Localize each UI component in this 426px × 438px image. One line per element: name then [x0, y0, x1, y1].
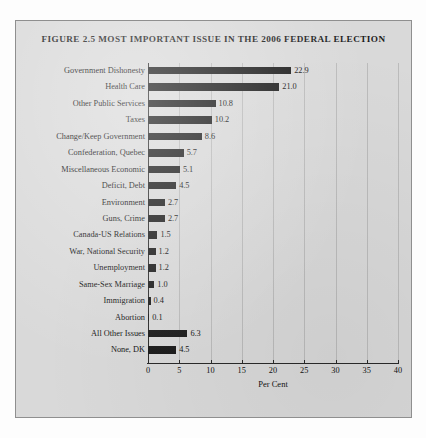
bar	[148, 67, 291, 74]
bar	[148, 264, 156, 271]
chart-row: Other Public Services10.8	[16, 96, 413, 112]
bar-track: 22.9	[148, 63, 398, 79]
chart-row: Canada-US Relations1.5	[16, 227, 413, 243]
bar-track: 1.5	[148, 227, 398, 243]
x-tick-0	[148, 360, 149, 363]
bar-value-label: 4.5	[179, 179, 189, 192]
chart-row: Same-Sex Marriage1.0	[16, 277, 413, 293]
chart-row: All Other Issues6.3	[16, 326, 413, 342]
category-label: Immigration	[25, 294, 145, 307]
bar	[148, 199, 165, 206]
x-tick-label-15: 15	[227, 366, 257, 375]
bar	[148, 281, 154, 288]
chart-row: Environment2.7	[16, 195, 413, 211]
x-axis: Per Cent 0510152025303540	[148, 363, 398, 393]
bar	[148, 314, 149, 321]
category-label: Government Dishonesty	[25, 64, 145, 77]
bar-value-label: 10.2	[215, 113, 230, 126]
bar	[148, 248, 156, 255]
bar	[148, 297, 151, 304]
category-label: Canada-US Relations	[25, 228, 145, 241]
bar-track: 4.5	[148, 342, 398, 358]
bar-value-label: 2.7	[168, 212, 178, 225]
x-tick-label-20: 20	[258, 366, 288, 375]
x-axis-title: Per Cent	[148, 379, 398, 389]
x-tick-label-35: 35	[352, 366, 382, 375]
x-tick-label-0: 0	[133, 366, 163, 375]
category-label: All Other Issues	[25, 327, 145, 340]
chart-row: Deficit, Debt4.5	[16, 178, 413, 194]
bar-value-label: 0.1	[152, 311, 162, 324]
chart-bar-rows: Government Dishonesty22.9Health Care21.0…	[16, 63, 413, 359]
category-label: War, National Security	[25, 245, 145, 258]
bar-value-label: 10.8	[219, 97, 234, 110]
bar	[148, 166, 180, 173]
category-label: Health Care	[25, 80, 145, 93]
bar-track: 2.7	[148, 195, 398, 211]
chart-row: Health Care21.0	[16, 79, 413, 95]
bar	[148, 133, 202, 140]
chart-row: Taxes10.2	[16, 112, 413, 128]
bar	[148, 116, 212, 123]
category-label: Guns, Crime	[25, 212, 145, 225]
category-label: Unemployment	[25, 261, 145, 274]
bar-track: 4.5	[148, 178, 398, 194]
bar-value-label: 5.1	[183, 163, 193, 176]
chart-row: Immigration0.4	[16, 293, 413, 309]
category-label: Abortion	[25, 311, 145, 324]
bar-value-label: 5.7	[187, 146, 197, 159]
x-tick-35	[367, 360, 368, 363]
category-label: Change/Keep Government	[25, 130, 145, 143]
bar-value-label: 1.0	[157, 278, 167, 291]
x-tick-label-40: 40	[383, 366, 413, 375]
bar	[148, 346, 176, 353]
x-tick-label-10: 10	[196, 366, 226, 375]
bar-track: 8.6	[148, 129, 398, 145]
chart-row: Guns, Crime2.7	[16, 211, 413, 227]
category-label: Deficit, Debt	[25, 179, 145, 192]
bar-value-label: 6.3	[190, 327, 200, 340]
bar-track: 6.3	[148, 326, 398, 342]
x-tick-label-5: 5	[164, 366, 194, 375]
x-tick-label-25: 25	[289, 366, 319, 375]
x-tick-30	[336, 360, 337, 363]
bar-track: 1.0	[148, 277, 398, 293]
chart-row: Unemployment1.2	[16, 260, 413, 276]
x-tick-25	[304, 360, 305, 363]
category-label: Environment	[25, 196, 145, 209]
x-tick-20	[273, 360, 274, 363]
x-tick-10	[211, 360, 212, 363]
bar	[148, 100, 216, 107]
figure-panel: Figure 2.5 Most Important Issue in the 2…	[15, 20, 412, 418]
bar-track: 5.7	[148, 145, 398, 161]
category-label: Taxes	[25, 113, 145, 126]
category-label: None, DK	[25, 343, 145, 356]
bar-track: 5.1	[148, 162, 398, 178]
chart-row: Miscellaneous Economic5.1	[16, 162, 413, 178]
bar-value-label: 1.2	[159, 245, 169, 258]
bar	[148, 215, 165, 222]
figure-root: Figure 2.5 Most Important Issue in the 2…	[0, 0, 426, 438]
bar-track: 21.0	[148, 79, 398, 95]
bar-track: 0.4	[148, 293, 398, 309]
x-axis-line	[147, 363, 399, 364]
bar	[148, 149, 184, 156]
x-tick-40	[398, 360, 399, 363]
chart-plot-area: Government Dishonesty22.9Health Care21.0…	[16, 63, 413, 393]
category-label: Other Public Services	[25, 97, 145, 110]
bar-value-label: 4.5	[179, 343, 189, 356]
bar	[148, 182, 176, 189]
bar-value-label: 2.7	[168, 196, 178, 209]
category-label: Same-Sex Marriage	[25, 278, 145, 291]
bar	[148, 330, 187, 337]
bar	[148, 83, 279, 90]
chart-row: War, National Security1.2	[16, 244, 413, 260]
bar-value-label: 21.0	[282, 80, 297, 93]
chart-row: Abortion0.1	[16, 310, 413, 326]
bar	[148, 231, 157, 238]
bar-value-label: 1.5	[160, 228, 170, 241]
chart-row: None, DK4.5	[16, 342, 413, 358]
bar-value-label: 8.6	[205, 130, 215, 143]
figure-title: Figure 2.5 Most Important Issue in the 2…	[16, 34, 411, 44]
bar-track: 0.1	[148, 310, 398, 326]
